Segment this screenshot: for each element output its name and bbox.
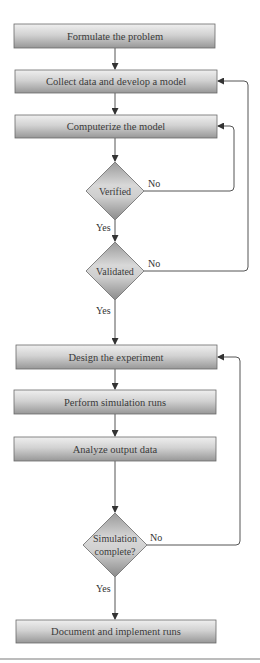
process-box-perform: Perform simulation runs xyxy=(14,390,216,414)
label-verified-no: No xyxy=(148,178,160,189)
diamond-label: Verified xyxy=(99,186,131,197)
process-box-design: Design the experiment xyxy=(16,345,217,369)
box-label: Document and implement runs xyxy=(51,626,181,637)
edge-validated-no-loop xyxy=(144,81,248,271)
diamond-label-line2: complete? xyxy=(94,546,136,557)
box-label: Perform simulation runs xyxy=(64,397,166,408)
label-validated-no: No xyxy=(148,258,160,269)
label-verified-yes: Yes xyxy=(96,222,111,233)
flowchart-diagram: Formulate the problem Collect data and d… xyxy=(0,0,260,663)
diamond-label-line1: Simulation xyxy=(93,533,137,544)
process-box-computerize: Computerize the model xyxy=(15,115,217,138)
process-box-collect: Collect data and develop a model xyxy=(15,70,217,93)
label-validated-yes: Yes xyxy=(96,305,111,316)
process-box-analyze: Analyze output data xyxy=(14,437,216,461)
process-box-formulate: Formulate the problem xyxy=(14,24,215,48)
box-label: Computerize the model xyxy=(67,121,166,132)
process-box-document: Document and implement runs xyxy=(16,620,216,643)
feedback-edges xyxy=(144,81,248,545)
box-label: Analyze output data xyxy=(73,444,158,455)
decision-diamond-validated: Validated xyxy=(86,242,144,300)
box-label: Design the experiment xyxy=(68,352,163,363)
decision-diamond-complete: Simulation complete? xyxy=(83,513,147,577)
box-label: Formulate the problem xyxy=(67,31,163,42)
label-complete-yes: Yes xyxy=(96,583,111,594)
label-complete-no: No xyxy=(150,532,162,543)
decision-diamond-verified: Verified xyxy=(86,162,144,220)
box-label: Collect data and develop a model xyxy=(46,76,186,87)
diamond-label: Validated xyxy=(96,266,134,277)
